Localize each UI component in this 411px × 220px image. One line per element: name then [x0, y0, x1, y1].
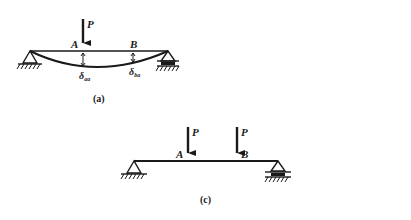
- point-b-label: B: [240, 148, 248, 160]
- figure-a: P A B δaa δba (a): [17, 18, 179, 105]
- beam-diagrams: P A B δaa δba (a) P P A: [0, 0, 411, 220]
- load-label: P: [87, 18, 94, 30]
- pin-support-icon: [121, 161, 147, 179]
- figure-c: P P A B (c): [121, 126, 291, 206]
- deflected-curve: [30, 51, 168, 67]
- point-a-label: A: [70, 38, 78, 50]
- point-b-label: B: [129, 38, 137, 50]
- caption-a: (a): [93, 93, 105, 105]
- load-label-a: P: [192, 126, 199, 138]
- caption-c: (c): [200, 194, 211, 206]
- load-label-b: P: [241, 126, 248, 138]
- deflection-aa-label: δaa: [79, 70, 90, 82]
- roller-support-icon: [265, 161, 291, 182]
- deflection-ba-label: δba: [129, 66, 140, 78]
- point-a-label: A: [175, 148, 183, 160]
